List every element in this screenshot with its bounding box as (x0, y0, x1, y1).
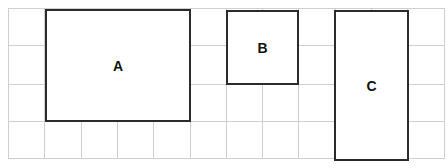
rectangle-a-label: A (113, 58, 123, 74)
rectangle-b-label: B (257, 40, 267, 56)
rectangle-a[interactable]: A (45, 9, 191, 122)
rectangle-c-label: C (366, 78, 376, 94)
rectangle-c[interactable]: C (334, 10, 409, 161)
diagram-canvas: A B C (0, 0, 448, 168)
rectangle-b[interactable]: B (226, 10, 299, 85)
